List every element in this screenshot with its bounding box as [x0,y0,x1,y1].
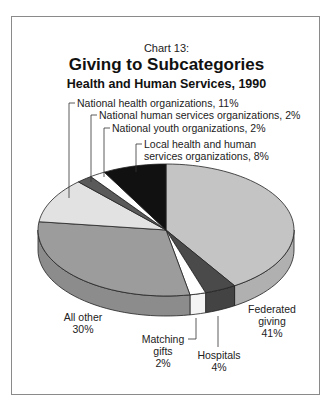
label-federated-name: Federated [245,303,299,315]
label-hospitals: Hospitals 4% [193,349,245,373]
label-national-health: National health organizations, 11% [77,97,239,109]
label-matching-name: Matching [140,333,186,345]
label-all-other-value: 30% [58,323,108,335]
label-matching-value: 2% [140,357,186,369]
label-all-other: All other 30% [58,311,108,335]
label-national-human-services: National human services organizations, 2… [99,109,300,121]
label-all-other-name: All other [58,311,108,323]
pie-side-matching-gifts [190,293,206,315]
label-hospitals-value: 4% [193,361,245,373]
label-federated-name2: giving [245,315,299,327]
label-national-youth: National youth organizations, 2% [112,122,266,134]
label-local-line1: Local health and human [144,138,256,150]
label-local-line2: services organizations, 8% [144,150,269,162]
label-matching-gifts: Matching gifts 2% [140,333,186,369]
label-federated-value: 41% [245,327,299,339]
label-hospitals-name: Hospitals [193,349,245,361]
label-matching-name2: gifts [140,345,186,357]
label-federated-giving: Federated giving 41% [245,303,299,339]
